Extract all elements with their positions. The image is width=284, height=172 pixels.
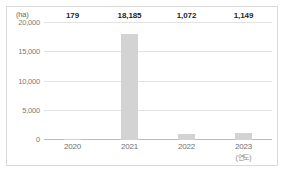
x-category-2020: 2020 <box>44 142 101 162</box>
bar-value-label: 1,149 <box>234 11 254 20</box>
bar-chart-figure: (ha) 20,000 15,000 10,000 5,000 0 179 18… <box>0 0 284 172</box>
y-tick-label-5000: 5,000 <box>22 105 40 114</box>
y-tick-label-20000: 20,000 <box>18 18 40 27</box>
bar-value-label: 18,185 <box>118 11 142 20</box>
y-tick-label-10000: 10,000 <box>18 76 40 85</box>
bar-2021 <box>121 34 138 140</box>
bar-2020 <box>64 139 81 140</box>
y-tick-label-15000: 15,000 <box>18 47 40 56</box>
bar-2022 <box>178 134 195 140</box>
bar-2023 <box>235 133 252 140</box>
x-category-label: 2021 <box>121 142 138 151</box>
bar-series: 179 18,185 1,072 1,149 <box>44 22 272 140</box>
bar-value-label: 179 <box>66 11 79 20</box>
x-category-label: 2020 <box>64 142 81 151</box>
bar-column-2022: 1,072 <box>158 22 215 140</box>
x-axis-labels: 2020 2021 2022 2023 (연도) <box>44 142 272 162</box>
x-category-2023: 2023 (연도) <box>215 142 272 162</box>
x-category-2022: 2022 <box>158 142 215 162</box>
bar-column-2020: 179 <box>44 22 101 140</box>
bar-value-label: 1,072 <box>177 11 197 20</box>
x-category-2021: 2021 <box>101 142 158 162</box>
y-tick-label-0: 0 <box>36 135 40 144</box>
x-category-label: 2023 <box>235 142 252 151</box>
bar-column-2023: 1,149 <box>215 22 272 140</box>
bar-column-2021: 18,185 <box>101 22 158 140</box>
plot-area: 20,000 15,000 10,000 5,000 0 179 18,185 … <box>44 22 272 140</box>
x-category-sublabel: (연도) <box>215 152 272 162</box>
x-category-label: 2022 <box>178 142 195 151</box>
